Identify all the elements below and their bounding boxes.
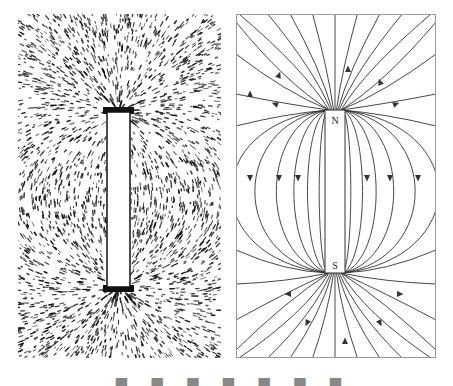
iron-filings-image [18, 14, 221, 358]
north-pole-label: N [331, 115, 338, 126]
iron-filings-panel [18, 14, 221, 358]
south-pole-label: S [332, 260, 338, 271]
field-lines-diagram: N S [236, 14, 436, 358]
field-lines-panel: N S [236, 14, 436, 358]
figure-caption-clipped: ▄ ▀▄ ▀ ▄▀▄ ▀▄ ▀ ▄▀▄ ▀▄ [0, 378, 453, 386]
caption-text: ▄ ▀▄ ▀ ▄▀▄ ▀▄ ▀ ▄▀▄ ▀▄ [0, 378, 453, 386]
bar-magnet [325, 110, 345, 273]
bar-magnet-photo [107, 112, 130, 287]
